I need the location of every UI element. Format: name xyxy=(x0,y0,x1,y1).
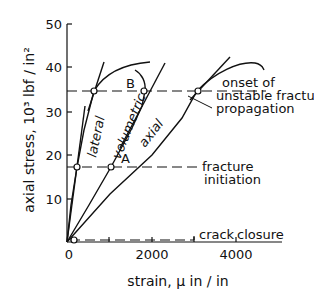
x-tick-labels: 0 2000 4000 xyxy=(65,247,253,262)
annotation-initiation: initiation xyxy=(204,172,261,187)
label-axial: axial xyxy=(136,116,167,150)
svg-text:0: 0 xyxy=(65,247,73,262)
svg-text:50: 50 xyxy=(45,17,62,32)
svg-text:2000: 2000 xyxy=(135,247,168,262)
stress-strain-chart: 50 40 30 20 10 0 2000 4000 strain, μ in … xyxy=(0,0,314,305)
svg-text:4000: 4000 xyxy=(219,247,252,262)
svg-text:20: 20 xyxy=(45,148,62,163)
y-axis-label: axial stress, 10³ lbf / in² xyxy=(21,47,37,213)
label-B: B xyxy=(126,76,135,91)
annotation-crack: crack xyxy=(199,227,235,242)
x-axis-label: strain, μ in / in xyxy=(127,273,228,289)
svg-text:30: 30 xyxy=(45,105,62,120)
label-lateral: lateral xyxy=(84,114,107,158)
annotation-onset-3: propagation xyxy=(216,101,295,116)
y-tick-labels: 50 40 30 20 10 xyxy=(45,17,62,207)
lateral-tangent xyxy=(67,106,85,242)
label-A: A xyxy=(121,151,130,166)
annotation-closure: closure xyxy=(237,227,284,242)
svg-text:40: 40 xyxy=(45,60,62,75)
svg-text:10: 10 xyxy=(45,192,62,207)
